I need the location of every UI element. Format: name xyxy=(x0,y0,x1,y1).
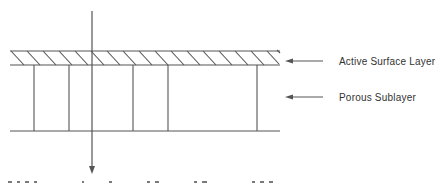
arrow-down-icon xyxy=(89,166,95,174)
cropped-caption-text xyxy=(0,181,446,185)
label-active-surface-layer: Active Surface Layer xyxy=(339,56,435,67)
hatch-lines xyxy=(11,50,280,65)
pointer-arrow-active-layer xyxy=(285,59,323,64)
pointer-arrow-porous-layer xyxy=(285,95,323,100)
porous-sublayer xyxy=(10,65,280,131)
active-surface-layer xyxy=(10,50,280,65)
flow-arrow xyxy=(89,11,95,174)
label-porous-sublayer: Porous Sublayer xyxy=(339,92,416,103)
arrow-left-icon xyxy=(285,59,293,64)
arrow-left-icon xyxy=(285,95,293,100)
